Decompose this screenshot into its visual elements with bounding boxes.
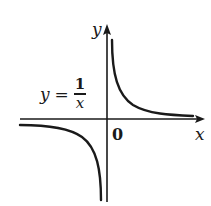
fraction-denominator: x	[76, 95, 84, 111]
fraction: 1 x	[74, 77, 86, 111]
function-equation: y = 1 x	[40, 77, 86, 111]
fraction-numerator: 1	[75, 77, 85, 93]
equation-lhs: y	[40, 84, 50, 104]
y-axis-label: y	[92, 21, 102, 38]
x-axis-label: x	[195, 126, 205, 143]
origin-label: 0	[112, 127, 123, 143]
curve-branch-positive	[112, 40, 193, 116]
hyperbola-figure: y x 0 y = 1 x	[0, 0, 211, 206]
equals-sign: =	[55, 84, 69, 104]
curve-branch-negative	[20, 125, 101, 200]
plot-area	[0, 0, 211, 206]
